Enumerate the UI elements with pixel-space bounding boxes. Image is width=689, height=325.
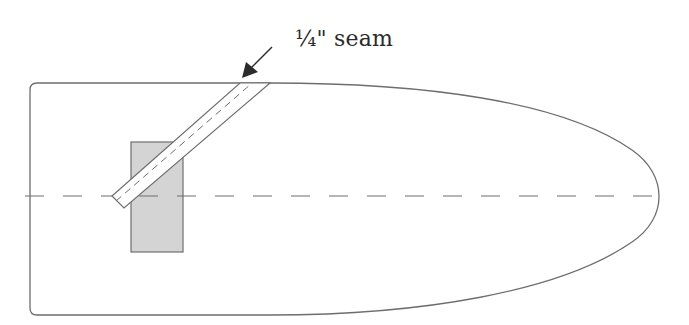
seam-label: ¼" seam bbox=[295, 26, 393, 51]
arrow-shaft bbox=[250, 47, 272, 69]
arrow-head-icon bbox=[242, 62, 258, 78]
